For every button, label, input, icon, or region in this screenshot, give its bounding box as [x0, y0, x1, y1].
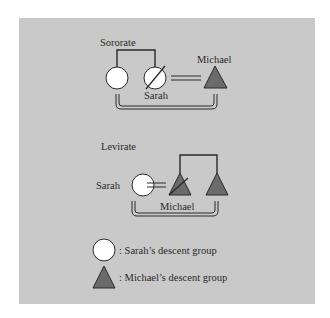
sibling-bracket — [180, 155, 217, 174]
sarah-deceased-circle-icon — [144, 66, 166, 89]
marriage-symbol — [171, 76, 201, 80]
levirate-title: Levirate — [101, 141, 136, 152]
levirate-sarah-label: Sarah — [96, 180, 121, 191]
sororate-section: Sororate Sarah Michael — [100, 37, 231, 109]
sororate-sarah-label: Sarah — [144, 90, 169, 101]
legend-label: : Sarah’s descent group — [119, 245, 217, 256]
michael-triangle-icon — [204, 66, 227, 88]
triangle-icon — [93, 266, 115, 288]
sarah-circle-icon — [132, 174, 154, 196]
sororate-title: Sororate — [100, 37, 136, 48]
legend-item-michael: : Michael’s descent group — [93, 266, 227, 288]
legend-item-sarah: : Sarah’s descent group — [93, 239, 217, 261]
circle-icon — [93, 239, 115, 261]
kinship-diagram: Sororate Sarah Michael Levirate Sa — [0, 0, 330, 318]
sibling-bracket — [117, 50, 155, 67]
levirate-michael-label: Michael — [160, 201, 194, 212]
legend: : Sarah’s descent group : Michael’s desc… — [93, 239, 227, 288]
levirate-section: Levirate Sarah Michael — [96, 141, 228, 216]
legend-label: : Michael’s descent group — [119, 272, 227, 283]
michael-deceased-triangle-icon — [169, 173, 191, 195]
brother-triangle-icon — [206, 173, 228, 195]
sister-circle-icon — [106, 67, 128, 89]
sororate-michael-label: Michael — [197, 54, 231, 65]
